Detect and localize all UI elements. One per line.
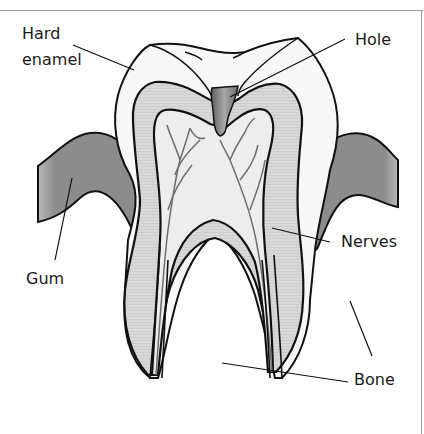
label-hard-enamel-line2: enamel bbox=[22, 50, 82, 69]
leader-hard-enamel bbox=[73, 45, 134, 70]
label-nerves: Nerves bbox=[341, 232, 397, 251]
leader-bone-upper bbox=[350, 301, 372, 356]
label-gum: Gum bbox=[26, 269, 64, 288]
label-bone: Bone bbox=[354, 370, 395, 389]
label-hole: Hole bbox=[355, 30, 391, 49]
tooth-pulp bbox=[152, 109, 273, 375]
label-hard-enamel-line1: Hard bbox=[22, 24, 60, 43]
